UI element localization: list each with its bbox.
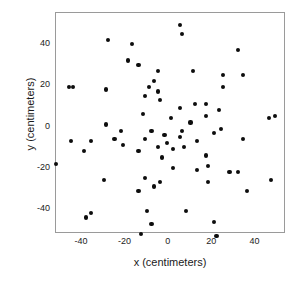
y-axis-title: y (centimeters) [24, 34, 36, 194]
x-tick-label: -20 [109, 236, 139, 246]
plot-frame [55, 12, 285, 233]
data-point [165, 141, 169, 145]
data-point [89, 211, 93, 215]
data-point [130, 42, 134, 46]
data-point [71, 85, 75, 89]
data-point [106, 38, 110, 42]
data-point [119, 129, 123, 133]
data-point [217, 108, 221, 112]
data-point [204, 114, 208, 118]
y-tick-label: -40 [26, 203, 50, 213]
data-point [204, 102, 208, 106]
x-tick-label: -40 [66, 236, 96, 246]
data-point [158, 180, 162, 184]
data-point [180, 129, 184, 133]
data-point [178, 106, 182, 110]
data-point [152, 184, 156, 188]
data-point [160, 155, 164, 159]
x-tick-label: 40 [240, 236, 270, 246]
data-point [206, 164, 210, 168]
data-point [141, 112, 145, 116]
data-point [195, 139, 199, 143]
data-point [206, 180, 210, 184]
data-point [171, 147, 175, 151]
data-point [219, 127, 223, 131]
data-point [136, 189, 140, 193]
data-point [149, 222, 153, 226]
data-point [212, 220, 216, 224]
x-axis-title: x (centimeters) [55, 256, 285, 268]
data-point [236, 170, 240, 174]
data-point [267, 116, 271, 120]
data-point [245, 189, 249, 193]
data-point [171, 166, 175, 170]
data-point [54, 162, 58, 166]
data-point [104, 122, 108, 126]
data-point [121, 143, 125, 147]
data-point [156, 89, 160, 93]
data-point [188, 120, 192, 124]
data-point [180, 32, 184, 36]
data-point [143, 137, 147, 141]
data-point [178, 135, 182, 139]
data-point [143, 176, 147, 180]
data-point [169, 116, 173, 120]
x-tick-label: 0 [153, 236, 183, 246]
scatter-plot-figure: -40-2002040 40200-20-40 x (centimeters) … [0, 0, 294, 281]
x-tick-label: 20 [196, 236, 226, 246]
data-point [191, 69, 195, 73]
data-point [241, 73, 245, 77]
data-point [104, 87, 108, 91]
data-point [82, 149, 86, 153]
data-point [193, 102, 197, 106]
data-point [162, 133, 166, 137]
data-point [147, 85, 151, 89]
data-point [182, 145, 186, 149]
data-point [112, 137, 116, 141]
data-point [156, 69, 160, 73]
data-point [204, 153, 208, 157]
data-point [149, 129, 153, 133]
data-point [184, 209, 188, 213]
data-point [156, 145, 160, 149]
data-point [136, 149, 140, 153]
data-point [212, 131, 216, 135]
data-point [89, 139, 93, 143]
data-point [69, 139, 73, 143]
data-point [221, 85, 225, 89]
data-point [158, 98, 162, 102]
data-point [227, 170, 231, 174]
data-points-layer [56, 13, 284, 232]
data-point [126, 58, 130, 62]
data-point [136, 63, 140, 67]
data-point [236, 48, 240, 52]
data-point [143, 94, 147, 98]
data-point [195, 168, 199, 172]
data-point [269, 178, 273, 182]
data-point [178, 23, 182, 27]
data-point [102, 178, 106, 182]
data-point [152, 79, 156, 83]
data-point [241, 137, 245, 141]
data-point [84, 215, 88, 219]
data-point [273, 114, 277, 118]
data-point [145, 209, 149, 213]
data-point [221, 73, 225, 77]
